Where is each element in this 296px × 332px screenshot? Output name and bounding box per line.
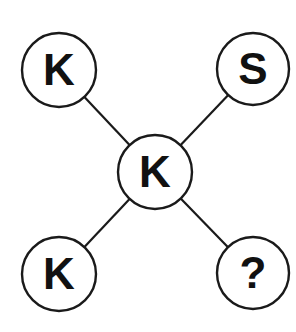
node-label: K <box>43 45 75 94</box>
letter-graph: KKSK? <box>0 0 296 332</box>
node-bottom-right: ? <box>217 237 289 309</box>
node-top-right: S <box>217 33 289 105</box>
node-label: ? <box>240 248 267 297</box>
diagram-canvas: KKSK? <box>0 0 296 332</box>
node-label: K <box>43 249 75 298</box>
node-label: K <box>139 147 171 196</box>
node-bottom-left: K <box>22 237 96 311</box>
node-label: S <box>238 44 267 93</box>
node-top-left: K <box>22 33 96 107</box>
node-center: K <box>118 135 192 209</box>
